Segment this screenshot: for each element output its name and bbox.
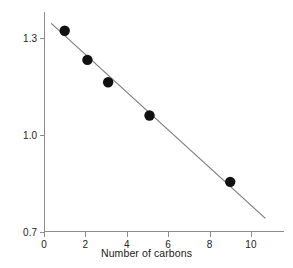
x-tick-mark [168, 232, 169, 237]
chart-figure: 0.71.01.3 0246810 Log solubility (mg/ml)… [0, 0, 293, 268]
x-tick-mark [44, 232, 45, 237]
x-tick-mark [85, 232, 86, 237]
data-point [225, 177, 235, 187]
data-series-layer [44, 12, 284, 232]
plot-area: 0.71.01.3 0246810 [44, 12, 284, 232]
data-points-group [59, 26, 235, 187]
x-tick-mark [127, 232, 128, 237]
data-point [82, 55, 92, 65]
x-tick-mark [251, 232, 252, 237]
y-tick-label: 1.0 [23, 129, 37, 140]
data-point [103, 77, 113, 87]
y-tick-label: 1.3 [23, 32, 37, 43]
x-tick-mark [210, 232, 211, 237]
data-point [59, 26, 69, 36]
data-point [144, 110, 154, 120]
x-axis-title: Number of carbons [0, 247, 293, 259]
y-tick-label: 0.7 [23, 227, 37, 238]
regression-line [51, 23, 265, 218]
